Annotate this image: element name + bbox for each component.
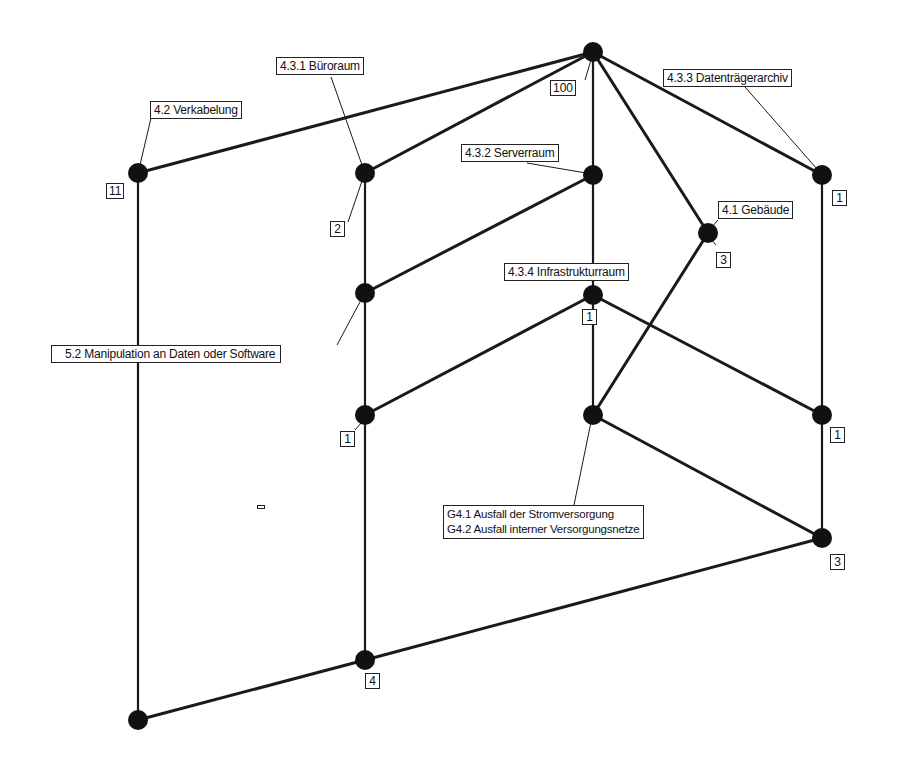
node-bottom <box>128 710 148 730</box>
edge-bottommid-bottom <box>138 660 365 720</box>
node-serverraum <box>583 165 603 185</box>
count-bottom-mid: 4 <box>365 673 380 689</box>
node-manipulation <box>355 283 375 303</box>
node-left-mid <box>355 405 375 425</box>
label-verkabelung: 4.2 Verkabelung <box>150 101 242 119</box>
label-infrastrukturraum: 4.3.4 Infrastrukturraum <box>504 263 629 281</box>
node-stromversorgung <box>583 405 603 425</box>
label-serverraum: 4.3.2 Serverraum <box>461 144 559 162</box>
count-verkabelung: 11 <box>106 183 124 199</box>
leader-manipulation <box>337 300 361 345</box>
node-verkabelung <box>128 163 148 183</box>
node-infrastrukturraum <box>583 285 603 305</box>
count-right-mid: 1 <box>830 427 845 443</box>
leader-top-count <box>585 60 591 80</box>
label-datentraegerarchiv: 4.3.3 Datenträgerarchiv <box>663 69 792 87</box>
label-bueroraum: 4.3.1 Büroraum <box>276 57 364 75</box>
leader-verkabelung <box>140 118 151 165</box>
count-top: 100 <box>550 80 576 96</box>
edge-gebaeude-strom <box>593 233 708 415</box>
count-bueroraum: 2 <box>330 221 345 237</box>
count-infrastrukturraum: 1 <box>582 309 597 325</box>
count-datentraegerarchiv: 1 <box>832 190 847 206</box>
leader-serverraum <box>527 163 586 173</box>
edge-infrastruktur-rightmid <box>593 295 822 415</box>
node-gebaeude <box>698 223 718 243</box>
stromversorgung-label: G4.1 Ausfall der Stromversorgung G4.2 Au… <box>443 505 644 539</box>
lattice-diagram <box>0 0 898 773</box>
node-bottom-mid <box>355 650 375 670</box>
node-right-mid <box>812 405 832 425</box>
count-left-mid: 1 <box>340 431 355 447</box>
leader-strom <box>574 422 591 505</box>
node-datentraegerarchiv <box>812 165 832 185</box>
label-g4-2: G4.2 Ausfall interner Versorgungsnetze <box>447 522 640 537</box>
label-manipulation: 5.2 Manipulation an Daten oder Software <box>51 345 281 363</box>
edge-infrastruktur-leftmid <box>365 295 593 415</box>
label-stromversorgung <box>257 505 265 509</box>
label-gebaeude: 4.1 Gebäude <box>718 201 793 219</box>
leader-datentraeger <box>745 87 817 169</box>
leader-bueroraum-count <box>348 181 362 222</box>
node-bueroraum <box>355 163 375 183</box>
edge-rightlow-bottommid <box>365 538 822 660</box>
node-right-low <box>812 528 832 548</box>
count-gebaeude: 3 <box>716 252 731 268</box>
node-top <box>583 42 603 62</box>
label-g4-1: G4.1 Ausfall der Stromversorgung <box>447 507 640 522</box>
leader-lines <box>140 60 817 505</box>
count-right-low: 3 <box>830 554 845 570</box>
